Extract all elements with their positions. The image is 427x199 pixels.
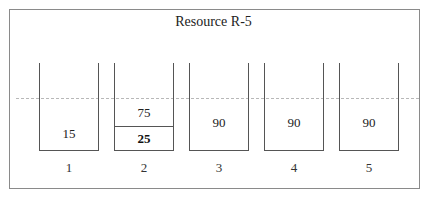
bin-5: 90 [339, 63, 399, 151]
bin-1: 15 [39, 63, 99, 151]
bin-4: 90 [264, 63, 324, 151]
bin-label: 1 [39, 160, 99, 176]
bin-3: 90 [189, 63, 249, 151]
bin-label: 2 [114, 160, 174, 176]
bin-value: 90 [340, 115, 398, 131]
bin-label: 5 [339, 160, 399, 176]
bin-label: 4 [264, 160, 324, 176]
bin-value: 75 [115, 105, 173, 121]
bin-sub-segment: 25 [115, 126, 173, 150]
bin-value: 90 [265, 115, 323, 131]
bin-2: 75 25 [114, 63, 174, 151]
bin-label: 3 [189, 160, 249, 176]
diagram-title: Resource R-5 [0, 14, 427, 30]
bin-value: 90 [190, 115, 248, 131]
bin-value: 15 [40, 126, 98, 142]
